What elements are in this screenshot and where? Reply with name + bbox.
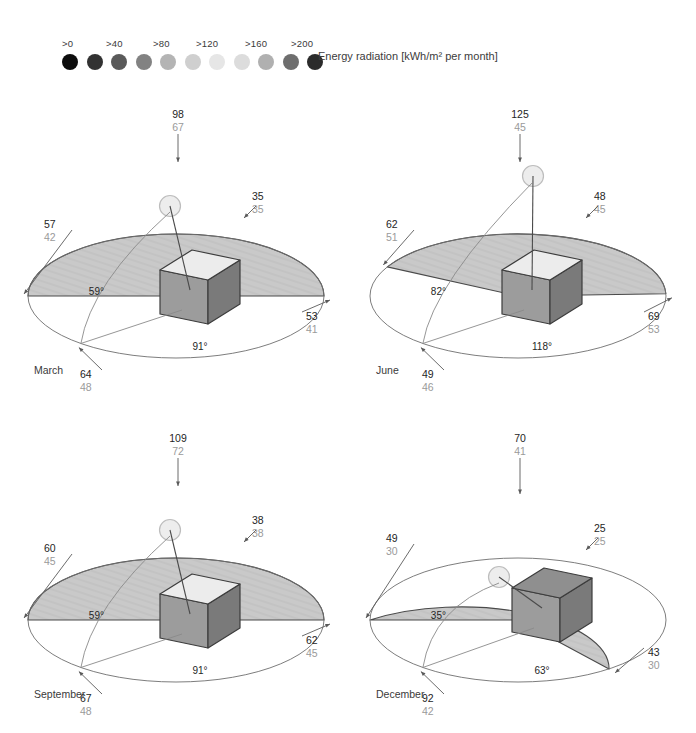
label-wall-right-upper-main: 48 [594,190,606,202]
month-label-june: June [376,364,399,376]
azimuth-reference-line [423,628,534,667]
legend-caption: Energy radiation [kWh/m² per month] [318,50,498,62]
building-cube [512,568,592,642]
label-roof-sub: 41 [514,445,526,457]
label-wall-right-lower-sub: 53 [648,323,660,335]
label-roof-sub: 72 [172,445,184,457]
label-wall-right-lower-sub: 45 [306,647,318,659]
label-wall-right-upper-sub: 35 [252,203,264,215]
legend-tick-1: >40 [106,38,123,49]
label-wall-left-sub: 30 [386,545,398,557]
leader-wall-bottom [79,347,102,370]
label-wall-bottom-sub: 46 [422,381,434,393]
legend-tick-labels: >0 >40 >80 >120 >160 >200 [58,38,318,52]
legend-tick-0: >0 [62,38,73,49]
label-wall-right-upper-main: 25 [594,522,606,534]
azimuth-span-label: 63° [534,665,549,676]
leader-roof-head [518,157,522,162]
label-wall-right-lower-main: 69 [648,310,660,322]
label-roof-main: 70 [514,432,526,444]
azimuth-reference-line [81,310,182,343]
label-wall-right-upper-sub: 25 [594,535,606,547]
panel-december: 35°63°70414930252543309242December [348,420,696,733]
label-wall-left-main: 60 [44,542,56,554]
label-wall-right-lower-main: 62 [306,634,318,646]
month-label-march: March [34,364,63,376]
label-wall-right-upper-sub: 38 [252,527,264,539]
panel-june: 82°118°125456251484569534946June [348,96,696,416]
panel-september: 59°91°109726045383862456748September [6,420,354,733]
elevation-angle-label: 59° [89,610,104,621]
legend: >0 >40 >80 >120 >160 >200 Energy radiati… [0,0,696,96]
legend-tick-2: >80 [153,38,170,49]
azimuth-reference-line [423,310,524,343]
panel-march: 59°91°98675742353553416448March [6,96,354,416]
leader-roof-head [176,481,180,486]
legend-tick-4: >160 [245,38,267,49]
legend-swatch-6 [209,54,225,70]
label-wall-bottom-main: 49 [422,368,434,380]
solar-radiation-diagram: >0 >40 >80 >120 >160 >200 Energy radiati… [0,0,696,733]
label-wall-bottom-sub: 42 [422,705,434,717]
azimuth-span-label: 91° [192,665,207,676]
label-wall-bottom-sub: 48 [80,705,92,717]
leader-wall-left-head [366,613,370,618]
label-roof-sub: 67 [172,121,184,133]
month-label-december: December [376,688,424,700]
label-wall-left-sub: 51 [386,231,398,243]
elevation-angle-label: 82° [431,286,446,297]
legend-swatch-0 [62,54,78,70]
elevation-angle-label: 35° [431,610,446,621]
azimuth-reference-line [81,634,182,667]
leader-right-lower [615,648,644,673]
label-wall-right-lower-sub: 41 [306,323,318,335]
label-roof-main: 109 [169,432,187,444]
label-wall-right-lower-main: 53 [306,310,318,322]
label-wall-right-upper-main: 38 [252,514,264,526]
leader-wall-bottom [421,347,444,370]
label-wall-right-upper-sub: 45 [594,203,606,215]
label-wall-right-upper-main: 35 [252,190,264,202]
legend-swatch-3 [136,54,152,70]
label-roof-main: 125 [511,108,529,120]
label-wall-left-main: 57 [44,218,56,230]
diagram-june: 82°118°125456251484569534946 [348,96,696,416]
legend-swatch-1 [87,54,103,70]
azimuth-span-label: 118° [532,341,552,352]
label-wall-left-main: 49 [386,532,398,544]
label-wall-bottom-main: 64 [80,368,92,380]
label-wall-left-main: 62 [386,218,398,230]
label-roof-main: 98 [172,108,184,120]
month-label-september: September [34,688,85,700]
label-wall-left-sub: 45 [44,555,56,567]
legend-color-scale [58,54,328,70]
leader-roof-head [518,489,522,494]
legend-swatch-9 [283,54,299,70]
label-roof-sub: 45 [514,121,526,133]
elevation-arc [423,583,499,668]
label-wall-left-sub: 42 [44,231,56,243]
legend-tick-5: >200 [291,38,313,49]
legend-swatch-8 [258,54,274,70]
legend-swatch-4 [160,54,176,70]
elevation-angle-label: 59° [89,286,104,297]
legend-swatch-7 [234,54,250,70]
azimuth-span-label: 91° [192,341,207,352]
diagram-december: 35°63°70414930252543309242 [348,420,696,733]
legend-swatch-5 [185,54,201,70]
diagram-september: 59°91°109726045383862456748 [6,420,354,733]
legend-swatch-2 [111,54,127,70]
label-wall-right-lower-sub: 30 [648,659,660,671]
label-wall-bottom-sub: 48 [80,381,92,393]
label-wall-right-lower-main: 43 [648,646,660,658]
leader-roof-head [176,157,180,162]
legend-tick-3: >120 [196,38,218,49]
